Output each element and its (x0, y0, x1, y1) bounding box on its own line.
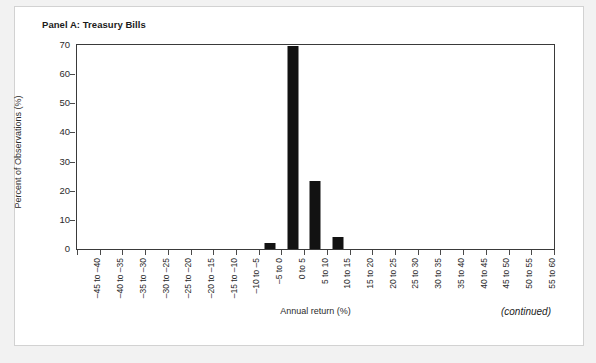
x-axis-tick-mark (350, 250, 351, 255)
x-axis-tick-mark (531, 250, 532, 255)
y-axis-tick-label: 50 (46, 98, 70, 108)
bar-slot (395, 45, 418, 249)
y-axis-tick-label: 40 (46, 127, 70, 137)
x-axis-tick-label: –5 to 0 (274, 258, 284, 284)
bar (287, 46, 298, 249)
x-axis-tick-label: –10 to –5 (251, 258, 261, 293)
x-axis-tick-label: 10 to 15 (342, 258, 352, 289)
x-axis-tick-mark (554, 250, 555, 255)
bar-slot (463, 45, 486, 249)
x-axis-tick-mark (418, 250, 419, 255)
x-axis-tick-mark (168, 250, 169, 255)
x-axis-tick-label: 15 to 20 (365, 258, 375, 289)
x-axis-tick-label: –15 to –10 (229, 258, 239, 298)
x-axis-tick-mark (213, 250, 214, 255)
bar-slot (281, 45, 304, 249)
x-axis-title: Annual return (%) (76, 306, 555, 316)
x-axis-tick-mark (259, 250, 260, 255)
x-axis-tick-label: 55 to 60 (547, 258, 557, 289)
x-axis-tick-mark (236, 250, 237, 255)
x-axis-tick-label: 5 to 10 (320, 258, 330, 284)
y-axis-tick-mark (70, 220, 75, 221)
x-axis-tick-mark (304, 250, 305, 255)
y-axis-tick-mark (70, 74, 75, 75)
y-axis-tick-label: 10 (46, 215, 70, 225)
x-axis-tick-mark (463, 250, 464, 255)
x-axis-tick-label: –25 to –20 (183, 258, 193, 298)
x-axis-tick-label: –40 to –35 (115, 258, 125, 298)
bar-slot (350, 45, 373, 249)
y-axis-tick-mark (70, 191, 75, 192)
x-axis-tick-label: 50 to 55 (524, 258, 534, 289)
y-axis-tick-label: 30 (46, 157, 70, 167)
x-axis-tick-mark (440, 250, 441, 255)
x-axis-tick-mark (509, 250, 510, 255)
bar-series (77, 45, 554, 249)
bar (310, 181, 321, 249)
chart-plot-area: 010203040506070 –45 to –40–40 to –35–35 … (0, 0, 596, 363)
x-axis-tick-mark (372, 250, 373, 255)
bar-slot (191, 45, 214, 249)
y-axis-title: Percent of Observations (%) (13, 72, 23, 232)
x-axis-tick-label: 20 to 25 (388, 258, 398, 289)
bar-slot (327, 45, 350, 249)
y-axis-tick-mark (70, 132, 75, 133)
y-axis-tick-mark (70, 103, 75, 104)
x-axis-tick-mark (100, 250, 101, 255)
y-axis-tick-mark (70, 162, 75, 163)
x-axis-tick-label: 0 to 5 (297, 258, 307, 279)
y-axis-tick-label: 20 (46, 186, 70, 196)
x-axis-tick-mark (77, 250, 78, 255)
bar-slot (440, 45, 463, 249)
bar-slot (122, 45, 145, 249)
bar-slot (304, 45, 327, 249)
bar-slot (236, 45, 259, 249)
x-axis-tick-label: 40 to 45 (479, 258, 489, 289)
y-axis-tick-label: 70 (46, 40, 70, 50)
x-axis-tick-label: 30 to 35 (433, 258, 443, 289)
bar-slot (100, 45, 123, 249)
x-axis-tick-label: –35 to –30 (138, 258, 148, 298)
x-axis-tick-label: –45 to –40 (92, 258, 102, 298)
bar-slot (145, 45, 168, 249)
bar-slot (486, 45, 509, 249)
bar-slot (168, 45, 191, 249)
bar-slot (77, 45, 100, 249)
x-axis-tick-mark (191, 250, 192, 255)
y-axis-tick-label: 60 (46, 69, 70, 79)
x-axis-tick-mark (122, 250, 123, 255)
bar-slot (259, 45, 282, 249)
x-axis-tick-label: –30 to –25 (161, 258, 171, 298)
x-axis-tick-label: 25 to 30 (410, 258, 420, 289)
x-axis-tick-mark (486, 250, 487, 255)
bar (333, 237, 344, 249)
bar-slot (372, 45, 395, 249)
bar (265, 243, 276, 249)
x-axis-tick-mark (281, 250, 282, 255)
x-axis-tick-mark (395, 250, 396, 255)
bar-slot (213, 45, 236, 249)
bar-slot (509, 45, 532, 249)
y-axis-tick-label: 0 (46, 244, 70, 254)
y-axis-tick-labels: 010203040506070 (44, 0, 70, 363)
x-axis-tick-mark (327, 250, 328, 255)
bar-slot (531, 45, 554, 249)
x-axis-tick-mark (145, 250, 146, 255)
page-background: Panel A: Treasury Bills (continued) 0102… (0, 0, 596, 363)
x-axis-tick-label: 35 to 40 (456, 258, 466, 289)
x-axis-tick-label: –20 to –15 (206, 258, 216, 298)
x-axis-tick-label: 45 to 50 (501, 258, 511, 289)
bar-slot (418, 45, 441, 249)
